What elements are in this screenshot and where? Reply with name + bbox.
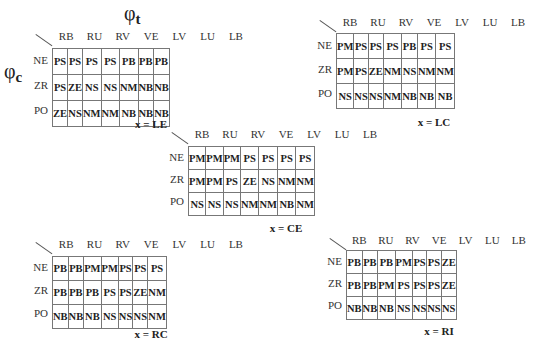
table-row: PSZENSNSNMNBNB [53, 75, 170, 101]
rule-cell: PS [412, 274, 426, 297]
column-header: LU [193, 30, 221, 42]
rule-cell: PS [133, 257, 148, 281]
row-headers: NEZRPO [312, 250, 342, 316]
column-header: RV [109, 238, 137, 250]
corner-diagonal [35, 34, 52, 46]
column-header: RV [244, 128, 272, 140]
rule-cell: PB [362, 274, 378, 297]
corner-diagonal [319, 20, 336, 32]
rule-cell: NM [383, 84, 402, 109]
rule-cell: NB [68, 305, 84, 329]
rule-cell: PB [362, 251, 378, 274]
rule-cell: NS [412, 297, 426, 320]
table-row: PBPBPBPSPSZENM [53, 281, 167, 305]
rule-cell: PB [120, 49, 139, 75]
rule-cell: NB [362, 297, 378, 320]
rule-cell: NM [296, 170, 315, 193]
row-header: PO [156, 190, 184, 212]
column-headers: RBRURVVELVLULB [52, 30, 250, 42]
rule-cell: PB [378, 251, 395, 274]
column-header: LB [506, 234, 533, 246]
table-row: PBPBPBPMPSPSZE [347, 251, 457, 274]
rule-cell: NM [240, 193, 259, 216]
rule-cell: PS [148, 257, 167, 281]
rule-cell: NB [138, 75, 154, 101]
table-row: PSPSPSPSPBPBPB [53, 49, 170, 75]
rule-cell: NB [378, 297, 395, 320]
row-headers: NEZRPO [28, 256, 48, 325]
rule-cell: PB [347, 251, 363, 274]
rule-cell: PM [189, 170, 206, 193]
rule-cell: PM [101, 257, 118, 281]
phi-t-axis-label: φt [124, 2, 141, 28]
rule-cell: PB [68, 281, 84, 305]
rule-cell: PM [84, 257, 101, 281]
rule-cell: NB [53, 305, 69, 329]
rule-cell: NB [402, 84, 418, 109]
rule-cell: PS [53, 75, 68, 101]
column-header: LU [193, 238, 221, 250]
rule-cell: NB [347, 297, 363, 320]
column-header: RU [364, 16, 392, 28]
rule-cell: PS [383, 34, 402, 59]
column-header: VE [137, 30, 165, 42]
rule-cell: PS [354, 59, 368, 84]
rule-cell: PM [337, 34, 354, 59]
rule-cell: NM [148, 305, 167, 329]
table-caption: x = LC [336, 116, 532, 128]
rule-cell: PS [368, 34, 383, 59]
rule-cell: PS [412, 251, 426, 274]
table-caption: x = CE [188, 222, 384, 234]
rule-cell: NM [259, 193, 278, 216]
rule-grid: PMPMPMPSPSPSPSPMPMPSZENSNMNMNSNSNSNMNMNB… [188, 146, 315, 216]
table-caption: x = RC [52, 328, 250, 340]
rule-cell: PB [68, 257, 84, 281]
rule-cell: NS [259, 170, 278, 193]
column-header: VE [420, 16, 448, 28]
row-header: ZR [28, 279, 48, 302]
rule-cell: PS [354, 34, 368, 59]
rule-cell: ZE [240, 170, 259, 193]
row-header: NE [156, 146, 184, 168]
row-header: ZR [30, 73, 48, 98]
rule-cell: NM [417, 59, 436, 84]
column-header: RB [188, 128, 216, 140]
rule-cell: NS [368, 84, 383, 109]
rule-cell: PS [240, 147, 259, 170]
rule-cell: NS [83, 75, 102, 101]
table-row: PBPBPMPSPSPSZE [347, 274, 457, 297]
rule-cell: PB [402, 34, 418, 59]
column-header: LV [448, 16, 476, 28]
rule-cell: NM [148, 281, 167, 305]
column-header: LB [356, 128, 384, 140]
rule-cell: PS [395, 274, 412, 297]
rule-cell: PS [296, 147, 315, 170]
rule-cell: NS [206, 193, 223, 216]
rule-cell: NM [277, 170, 296, 193]
rule-cell: NS [395, 297, 412, 320]
corner-diagonal [35, 242, 52, 254]
rule-cell: ZE [441, 251, 456, 274]
row-header: PO [302, 81, 332, 105]
rule-cell: PM [337, 59, 354, 84]
column-headers: RBRURVVELVLULB [336, 16, 532, 28]
table-row: PMPSPSPSPBPSPS [337, 34, 455, 59]
row-headers: NEZRPO [302, 33, 332, 105]
column-header: LB [504, 16, 532, 28]
rule-cell: NM [296, 193, 315, 216]
row-header: ZR [156, 168, 184, 190]
rule-cell: NB [154, 75, 170, 101]
row-header: PO [28, 302, 48, 325]
rule-cell: NM [383, 59, 402, 84]
column-header: RU [80, 238, 108, 250]
column-header: RU [373, 234, 400, 246]
rule-cell: NS [118, 305, 132, 329]
column-header: RB [336, 16, 364, 28]
table-row: NBNBNBNSNSNSNS [347, 297, 457, 320]
row-header: ZR [312, 272, 342, 294]
rule-cell: NS [133, 305, 148, 329]
rule-cell: PS [101, 49, 120, 75]
column-header: LB [222, 238, 250, 250]
corner-diagonal [171, 132, 188, 144]
column-header: LU [328, 128, 356, 140]
